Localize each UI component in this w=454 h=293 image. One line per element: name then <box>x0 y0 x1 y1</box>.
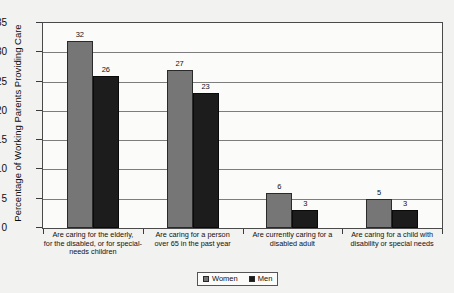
y-axis-tick-mark <box>36 198 42 199</box>
bar-men-1 <box>193 93 219 228</box>
y-axis-tick-label: 10 <box>0 164 7 174</box>
x-axis-category-label: Are caring for a personover 65 in the pa… <box>140 231 246 248</box>
y-axis-tick-label: 25 <box>0 77 7 87</box>
plot-area <box>42 22 443 229</box>
y-axis-tick-mark <box>36 168 42 169</box>
bar-women-0 <box>67 41 93 228</box>
x-axis-category-label: Are caring for the elderly,for the disab… <box>40 231 146 257</box>
legend-label-women: Women <box>212 275 238 283</box>
bar-women-3 <box>366 199 392 228</box>
x-axis-category-label: Are caring for a child withdisability or… <box>339 231 445 248</box>
category-label-line: over 65 in the past year <box>140 240 246 249</box>
category-label-line: disabled adult <box>240 240 346 249</box>
legend-item-men[interactable]: Men <box>249 275 273 283</box>
y-axis-tick-mark <box>36 227 42 228</box>
bar-women-2 <box>266 193 292 228</box>
y-axis-tick-label: 15 <box>0 135 7 145</box>
y-axis-tick-label: 35 <box>0 18 7 28</box>
legend-swatch-women-icon <box>203 276 209 282</box>
legend-label-men: Men <box>258 275 273 283</box>
bar-value-label: 3 <box>392 200 418 208</box>
category-label-line: needs children <box>40 248 146 257</box>
bar-men-0 <box>93 76 119 228</box>
bar-value-label: 3 <box>292 200 318 208</box>
y-axis-tick-label: 20 <box>0 106 7 116</box>
bar-value-label: 27 <box>167 60 193 68</box>
y-axis-tick-label: 5 <box>0 194 7 204</box>
bar-men-2 <box>292 210 318 228</box>
gridline <box>43 52 442 53</box>
bar-value-label: 5 <box>366 189 392 197</box>
chart-legend: Women Men <box>197 272 278 286</box>
cropped-title-remnant <box>0 0 454 11</box>
x-axis-category-label: Are currently caring for adisabled adult <box>240 231 346 248</box>
y-axis-tick-mark <box>36 22 42 23</box>
bar-value-label: 6 <box>266 183 292 191</box>
legend-swatch-men-icon <box>249 276 255 282</box>
y-axis-tick-mark <box>36 139 42 140</box>
bar-value-label: 26 <box>93 66 119 74</box>
bar-value-label: 23 <box>193 83 219 91</box>
category-label-line: disability or special needs <box>339 240 445 249</box>
x-axis-tick-mark <box>442 229 443 234</box>
y-axis-tick-mark <box>36 51 42 52</box>
legend-item-women[interactable]: Women <box>203 275 238 283</box>
bar-men-3 <box>392 210 418 228</box>
y-axis-title: Percentage of Working Parents Providing … <box>12 7 26 239</box>
y-axis-tick-mark <box>36 81 42 82</box>
bar-women-1 <box>167 70 193 228</box>
y-axis-tick-label: 0 <box>0 223 7 233</box>
y-axis-tick-mark <box>36 110 42 111</box>
y-axis-tick-label: 30 <box>0 47 7 57</box>
bar-value-label: 32 <box>67 31 93 39</box>
